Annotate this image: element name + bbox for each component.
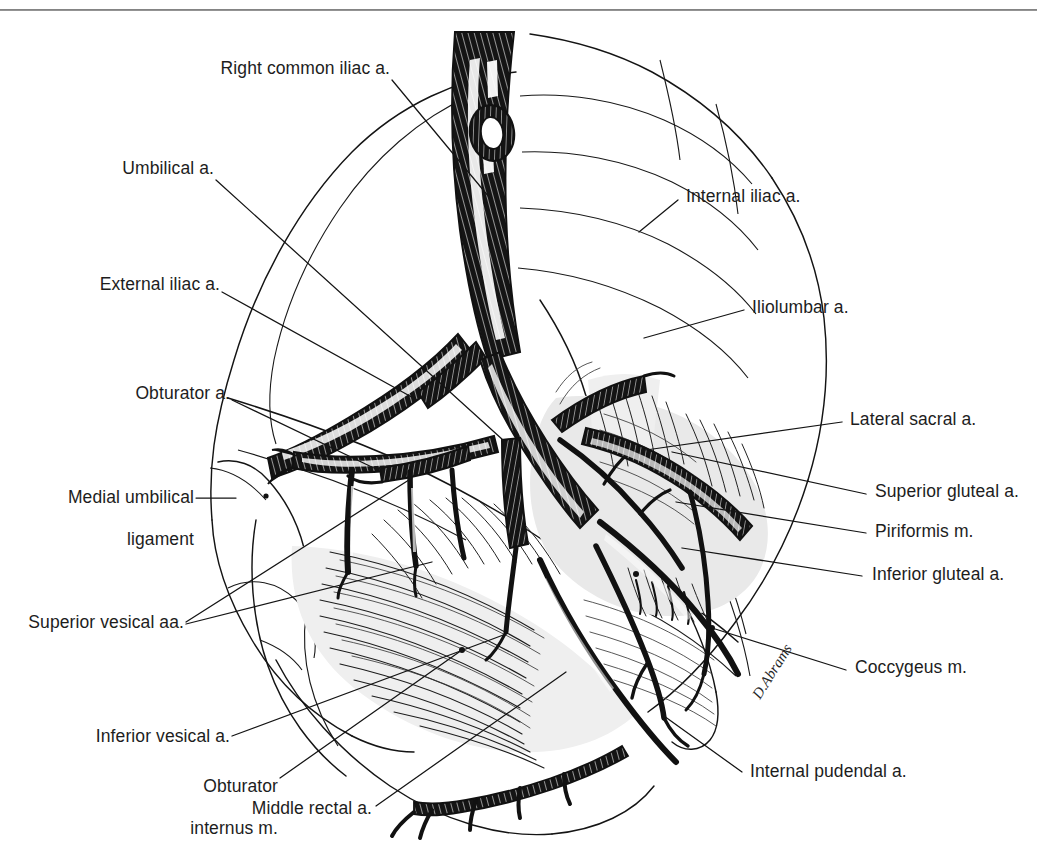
label-superior-vesical-aa: Superior vesical aa. — [0, 612, 184, 633]
label-internal-pudendal-a: Internal pudendal a. — [750, 761, 907, 782]
label-external-iliac-a: External iliac a. — [0, 274, 220, 295]
leader-external-iliac — [222, 292, 417, 400]
label-obturator-internus-line2: internus m. — [190, 818, 278, 838]
label-medial-umbilical-line2: ligament — [127, 529, 194, 549]
label-inferior-vesical-a: Inferior vesical a. — [0, 726, 230, 747]
label-umbilical-a: Umbilical a. — [0, 158, 214, 179]
label-medial-umbilical-line1: Medial umbilical — [68, 487, 194, 507]
aorta-trunk — [452, 32, 520, 360]
label-obturator-internus-line1: Obturator — [203, 776, 278, 796]
label-right-common-iliac-a: Right common iliac a. — [0, 58, 390, 79]
label-lateral-sacral-a: Lateral sacral a. — [850, 409, 976, 430]
label-superior-gluteal-a: Superior gluteal a. — [875, 481, 1019, 502]
label-medial-umbilical-ligament: Medial umbilical ligament — [0, 466, 194, 571]
anatomical-plate: D.Abrams Right common iliac a. Umbilical… — [0, 0, 1037, 862]
leader-internal-iliac — [639, 200, 678, 232]
label-iliolumbar-a: Iliolumbar a. — [752, 297, 849, 318]
anterior-division-artery — [502, 438, 528, 548]
label-inferior-gluteal-a: Inferior gluteal a. — [872, 564, 1004, 585]
label-coccygeus-m: Coccygeus m. — [855, 657, 967, 678]
label-internal-iliac-a: Internal iliac a. — [686, 186, 801, 207]
label-obturator-a: Obturator a. — [0, 383, 230, 404]
leader-iliolumbar — [644, 310, 744, 338]
label-middle-rectal-a: Middle rectal a. — [0, 798, 372, 819]
artist-signature: D.Abrams — [748, 641, 795, 702]
label-piriformis-m: Piriformis m. — [875, 521, 974, 542]
